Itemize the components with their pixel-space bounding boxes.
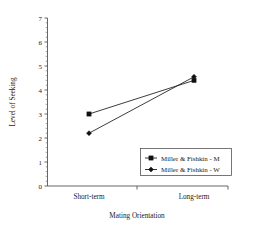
line-chart: 01234567 Short-termLong-term Level of Se… [0, 0, 253, 231]
y-tick-label: 3 [39, 111, 43, 119]
chart-figure: 01234567 Short-termLong-term Level of Se… [0, 0, 253, 231]
x-axis-tick-labels: Short-termLong-term [73, 193, 209, 201]
y-tick-label: 4 [39, 87, 43, 95]
legend-label: Miller & Fishkin - M [161, 155, 220, 162]
data-point-marker [149, 156, 153, 160]
x-tick-label: Long-term [179, 193, 210, 201]
series-lines [89, 77, 194, 133]
legend-label: Miller & Fishkin - W [161, 166, 220, 173]
legend: Miller & Fishkin - MMiller & Fishkin - W [141, 149, 232, 176]
y-tick-label: 0 [39, 183, 43, 191]
x-axis-ticks [137, 186, 228, 190]
x-tick-label: Short-term [73, 193, 105, 201]
y-tick-label: 7 [39, 15, 43, 23]
x-axis-title: Mating Orientation [109, 212, 165, 220]
data-point-marker [87, 112, 91, 116]
y-tick-label: 1 [39, 159, 43, 167]
y-tick-label: 5 [39, 63, 43, 71]
y-tick-label: 6 [39, 39, 43, 47]
y-axis-tick-labels: 01234567 [39, 15, 43, 191]
y-tick-label: 2 [39, 135, 43, 143]
series-line [89, 77, 194, 133]
data-point-marker [87, 131, 92, 136]
y-axis-title: Level of Seeking [9, 77, 17, 127]
